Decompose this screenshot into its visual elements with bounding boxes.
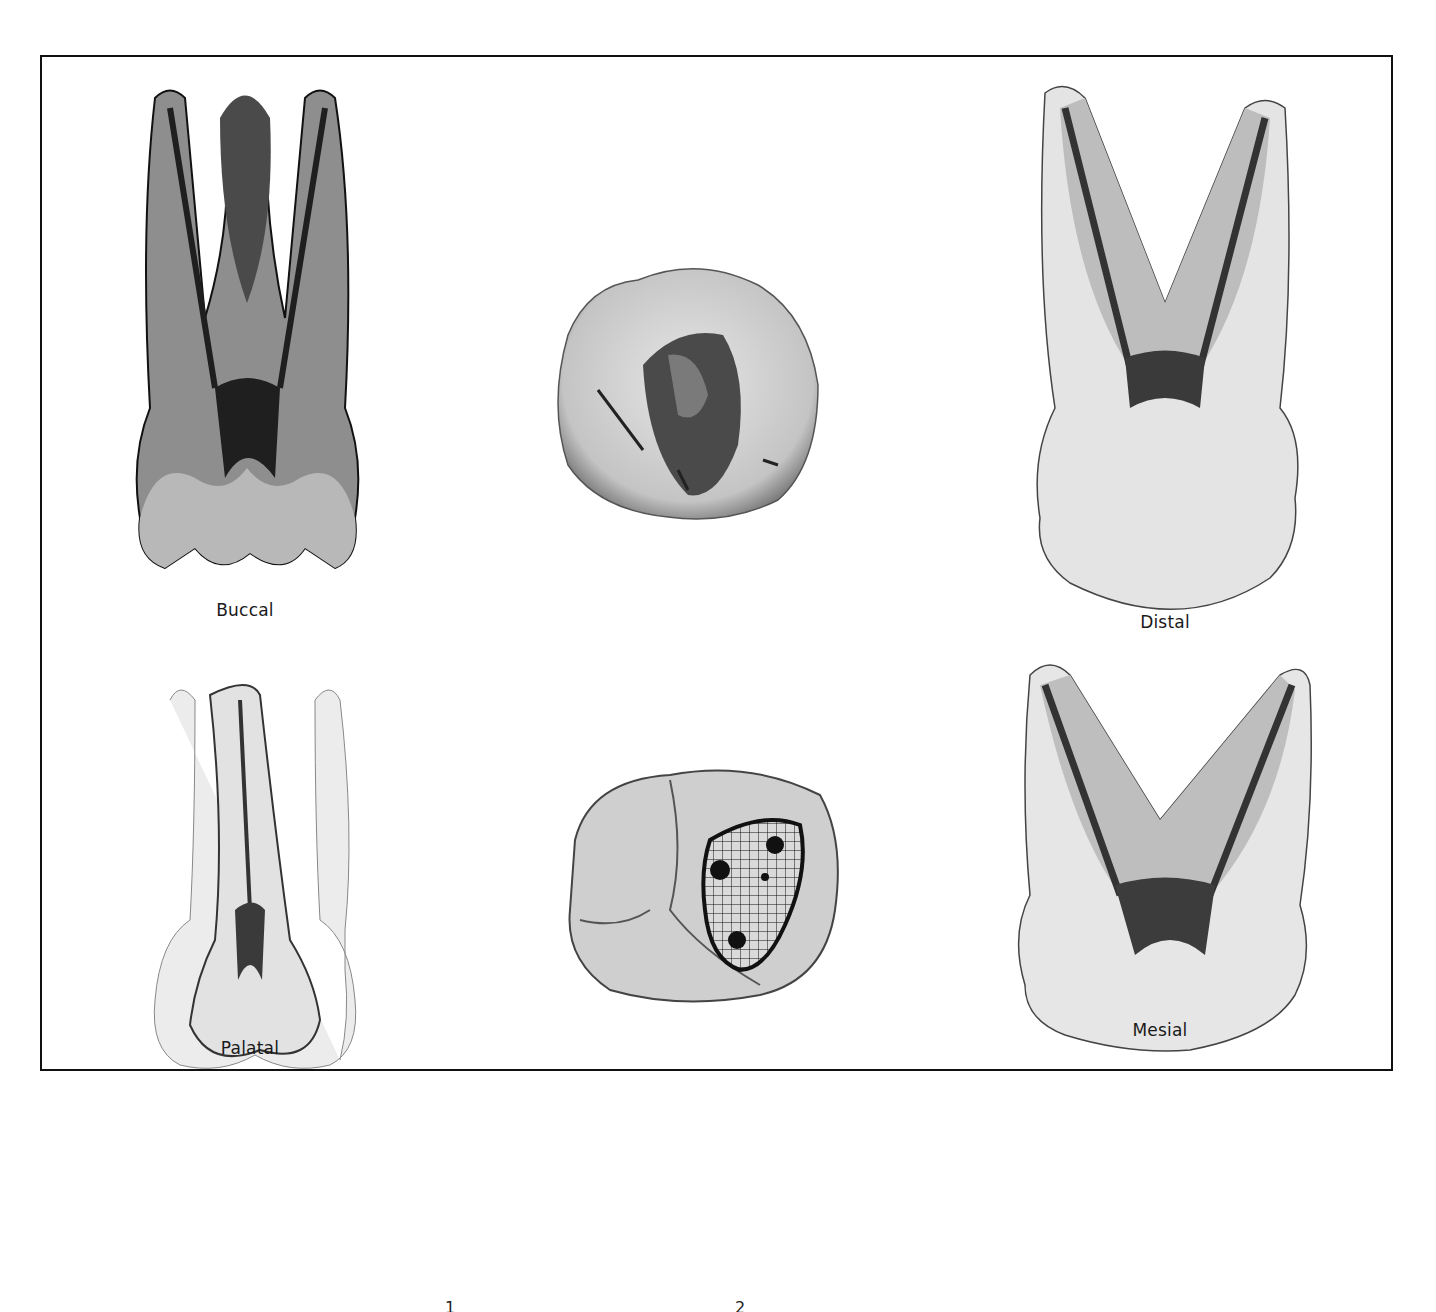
- tooth-distal-view: [1030, 78, 1310, 618]
- canal-orifice-mb2: [761, 873, 769, 881]
- label-distal: Distal: [1140, 612, 1190, 632]
- label-mesial: Mesial: [1132, 1020, 1187, 1040]
- canal-orifice-db: [710, 860, 730, 880]
- mesial-tooth-illustration: [1010, 655, 1320, 1055]
- distal-tooth-illustration: [1030, 78, 1310, 618]
- occlusal-access-outline-illustration: [560, 760, 845, 1005]
- occlusal-photo-illustration: [548, 255, 823, 525]
- tooth-palatal-view: [140, 680, 370, 1080]
- canal-orifice-p: [728, 931, 746, 949]
- canal-orifice-mb: [766, 836, 784, 854]
- tooth-mesial-view: [1010, 655, 1320, 1055]
- label-palatal: Palatal: [221, 1038, 279, 1058]
- label-buccal: Buccal: [216, 600, 273, 620]
- buccal-tooth-illustration: [125, 78, 370, 593]
- tooth-buccal-view: [125, 78, 370, 593]
- caption-fragment-1: 1: [445, 1298, 455, 1312]
- caption-fragment-2: 2: [735, 1298, 745, 1312]
- occlusal-photo: [548, 255, 823, 525]
- palatal-tooth-illustration: [140, 680, 370, 1080]
- occlusal-drawing: [560, 760, 845, 1005]
